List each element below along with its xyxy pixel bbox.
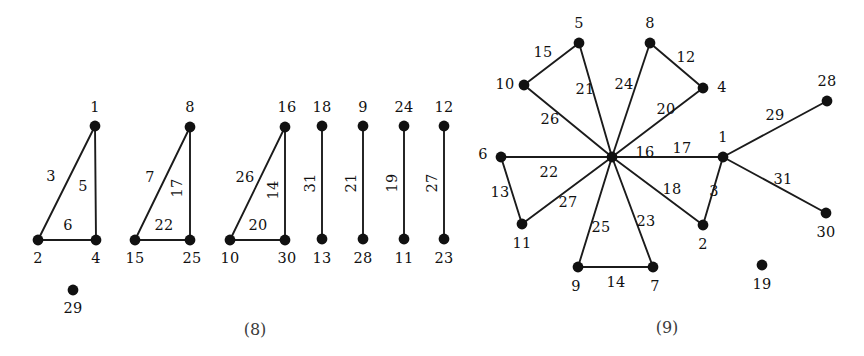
edge-weight-label: 31 bbox=[302, 174, 318, 193]
graph-vertex bbox=[517, 219, 528, 230]
vertex-label: 10 bbox=[221, 250, 240, 266]
vertex-label: 8 bbox=[185, 99, 194, 115]
vertex-label: 25 bbox=[183, 250, 202, 266]
edge-weight-label: 26 bbox=[541, 111, 560, 127]
graph-vertex bbox=[91, 235, 102, 246]
graph-edge bbox=[522, 157, 612, 224]
graph-vertex bbox=[317, 234, 328, 245]
vertex-label: 4 bbox=[91, 250, 100, 266]
edge-weight-label: 20 bbox=[657, 101, 676, 117]
vertex-label: 24 bbox=[395, 99, 414, 115]
graph-vertex bbox=[439, 234, 450, 245]
vertex-label: 6 bbox=[478, 146, 487, 162]
graph-edge bbox=[612, 43, 650, 157]
edge-weight-label: 20 bbox=[249, 217, 268, 233]
graph-vertex bbox=[757, 260, 768, 271]
graph-vertex bbox=[648, 262, 659, 273]
edge-labels-layer: 3567172226142031211927152126241220172213… bbox=[46, 44, 792, 290]
edge-weight-label: 17 bbox=[673, 140, 692, 156]
vertex-label: 8 bbox=[645, 15, 654, 31]
graph-vertex bbox=[718, 152, 729, 163]
edge-weight-label: 3 bbox=[46, 168, 55, 184]
graph-edge bbox=[578, 157, 612, 267]
edge-weight-label: 25 bbox=[592, 219, 611, 235]
node-labels-layer: 1248152516103018139282411122329165810461… bbox=[33, 15, 836, 316]
vertex-label: 7 bbox=[650, 278, 659, 294]
graph-vertex bbox=[130, 235, 141, 246]
vertex-label: 11 bbox=[513, 235, 532, 251]
edge-weight-label: 7 bbox=[145, 169, 154, 185]
edge-weight-label: 17 bbox=[169, 179, 185, 198]
graph-vertex bbox=[358, 234, 369, 245]
edge-weight-label: 5 bbox=[78, 178, 87, 194]
graph-vertex bbox=[698, 220, 709, 231]
edge-weight-label: 22 bbox=[155, 217, 174, 233]
vertex-label: 12 bbox=[435, 99, 454, 115]
graph-vertex bbox=[280, 122, 291, 133]
graph-figure: 3567172226142031211927152126241220172213… bbox=[0, 0, 864, 356]
vertex-label: 1 bbox=[90, 99, 99, 115]
edge-weight-label: 23 bbox=[637, 213, 656, 229]
panel-caption: (8) bbox=[244, 320, 267, 339]
edge-weight-label: 21 bbox=[343, 174, 359, 193]
edge-weight-label: 14 bbox=[265, 181, 281, 200]
edge-weight-label: 18 bbox=[663, 181, 682, 197]
graph-edge bbox=[95, 126, 96, 240]
edge-weight-label: 29 bbox=[766, 107, 785, 123]
graph-vertex bbox=[645, 38, 656, 49]
graph-vertex bbox=[33, 235, 44, 246]
edge-weight-label: 14 bbox=[607, 274, 626, 290]
graph-vertex bbox=[317, 121, 328, 132]
graph-vertex bbox=[607, 152, 618, 163]
graph-vertex bbox=[358, 121, 369, 132]
vertex-label: 10 bbox=[496, 76, 515, 92]
graph-edge bbox=[579, 43, 612, 157]
edge-weight-label: 31 bbox=[774, 171, 793, 187]
panel-caption: (9) bbox=[656, 318, 679, 337]
edge-weight-label: 21 bbox=[576, 81, 595, 97]
graph-vertex bbox=[439, 121, 450, 132]
graph-vertex bbox=[68, 285, 79, 296]
vertex-label: 30 bbox=[817, 224, 836, 240]
edge-weight-label: 12 bbox=[677, 49, 696, 65]
edge-weight-label: 27 bbox=[559, 194, 578, 210]
graph-vertex bbox=[519, 80, 530, 91]
vertex-label: 13 bbox=[313, 250, 332, 266]
vertex-label: 30 bbox=[278, 250, 297, 266]
edge-weight-label: 22 bbox=[540, 164, 559, 180]
vertex-label: 18 bbox=[313, 99, 332, 115]
vertex-label: 19 bbox=[753, 276, 772, 292]
graph-edge bbox=[524, 85, 612, 157]
edge-weight-label: 13 bbox=[491, 184, 510, 200]
vertex-label: 28 bbox=[818, 73, 837, 89]
captions-layer: (8)(9) bbox=[244, 318, 679, 339]
vertex-label: 2 bbox=[698, 236, 707, 252]
vertex-label: 9 bbox=[571, 278, 580, 294]
graph-vertex bbox=[185, 235, 196, 246]
vertex-label: 15 bbox=[126, 250, 145, 266]
vertex-label: 11 bbox=[395, 250, 414, 266]
vertex-label: 2 bbox=[33, 250, 42, 266]
graph-vertex bbox=[90, 121, 101, 132]
vertex-label: 5 bbox=[574, 15, 583, 31]
vertex-label: 29 bbox=[64, 300, 83, 316]
edge-weight-label: 15 bbox=[534, 44, 553, 60]
graph-vertex bbox=[821, 208, 832, 219]
graph-vertex bbox=[225, 235, 236, 246]
graph-vertex bbox=[822, 96, 833, 107]
graph-vertex bbox=[399, 121, 410, 132]
graph-canvas: 3567172226142031211927152126241220172213… bbox=[0, 0, 864, 356]
graph-vertex bbox=[698, 83, 709, 94]
vertex-label: 16 bbox=[278, 99, 297, 115]
vertex-label: 9 bbox=[358, 99, 367, 115]
vertex-label: 1 bbox=[718, 129, 727, 145]
graph-vertex bbox=[280, 235, 291, 246]
edge-weight-label: 3 bbox=[709, 183, 718, 199]
graph-vertex bbox=[496, 152, 507, 163]
vertex-label: 4 bbox=[717, 79, 726, 95]
graph-vertex bbox=[185, 122, 196, 133]
edge-weight-label: 19 bbox=[384, 174, 400, 193]
nodes-layer bbox=[33, 38, 833, 296]
vertex-label: 16 bbox=[636, 144, 655, 160]
edge-weight-label: 24 bbox=[615, 76, 634, 92]
